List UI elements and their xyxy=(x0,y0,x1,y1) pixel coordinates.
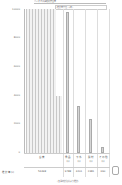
y-tick: 2000 xyxy=(2,122,20,125)
category-label: その他(t) xyxy=(97,156,109,164)
category-label: 畜糞 xyxy=(30,156,54,160)
bar-lumber xyxy=(89,119,92,153)
category-label: 食品(t) xyxy=(63,156,73,164)
chart-title: バイオマス種類別発生量 xyxy=(34,0,106,4)
value-cell: 2381 xyxy=(85,170,97,173)
bar-livestock-step xyxy=(56,96,62,153)
y-tick: 4000 xyxy=(2,94,20,97)
value-cell: 54398 xyxy=(30,170,54,173)
page-icon xyxy=(112,166,119,175)
value-cell: 9788 xyxy=(63,170,73,173)
x-axis xyxy=(24,153,110,154)
value-cell: 3201 xyxy=(73,170,85,173)
table-divider xyxy=(24,167,110,168)
column-divider xyxy=(73,9,74,177)
y-tick: 0 xyxy=(2,151,20,154)
column-divider xyxy=(97,9,98,177)
y-tick: 6000 xyxy=(2,65,20,68)
column-divider xyxy=(85,9,86,177)
y-tick: 10000 xyxy=(2,8,20,11)
value-cell: 690 xyxy=(97,170,109,173)
column-divider xyxy=(109,9,110,177)
category-label: 製材(t) xyxy=(85,156,97,164)
bar-livestock xyxy=(26,9,56,153)
row-label: 推計量(t) xyxy=(2,170,14,174)
category-label: 下水(t) xyxy=(73,156,85,164)
bar-food xyxy=(66,12,69,153)
column-divider xyxy=(63,9,64,177)
bar-sewage xyxy=(77,106,80,153)
y-tick: 8000 xyxy=(2,36,20,39)
source-note: (各種統計資料より推計) xyxy=(57,180,79,183)
